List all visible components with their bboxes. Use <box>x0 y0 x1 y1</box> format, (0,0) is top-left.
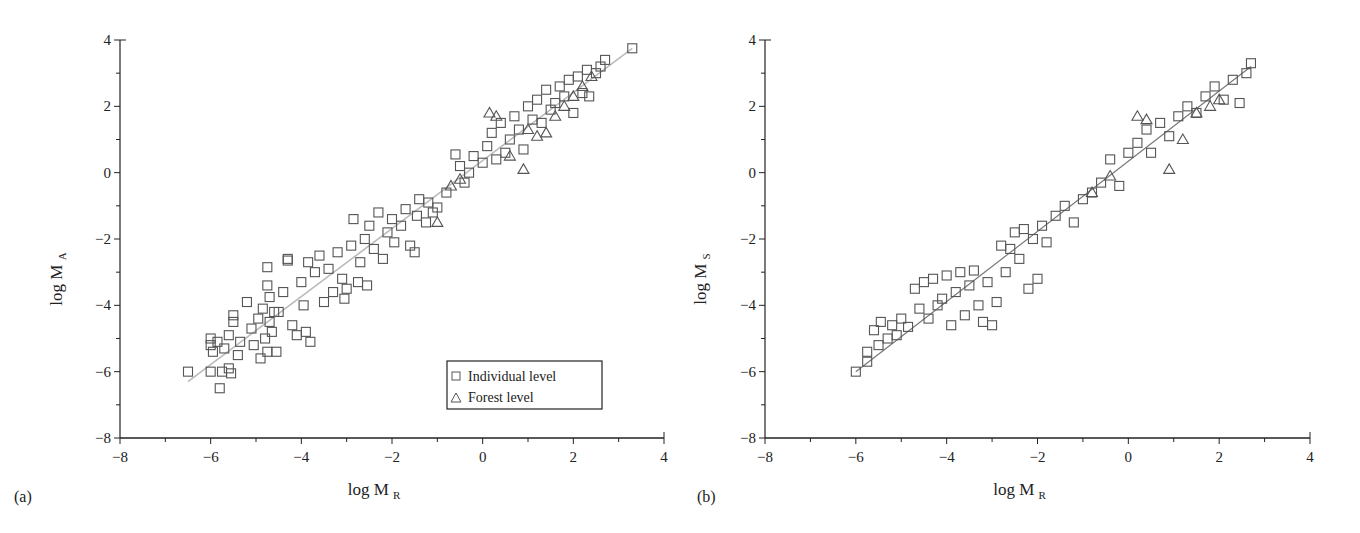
square-marker <box>342 284 351 293</box>
square-marker <box>910 284 919 293</box>
regression-line <box>188 48 632 381</box>
x-tick-label: −8 <box>757 449 773 465</box>
square-marker <box>272 347 281 356</box>
square-marker <box>263 347 272 356</box>
square-marker <box>915 304 924 313</box>
square-marker <box>258 304 267 313</box>
y-tick-label: 0 <box>104 165 112 181</box>
square-marker <box>487 128 496 137</box>
square-marker <box>254 314 263 323</box>
x-tick-label: 2 <box>570 449 578 465</box>
square-marker <box>415 195 424 204</box>
square-marker <box>256 354 265 363</box>
square-marker <box>542 85 551 94</box>
square-marker <box>233 351 242 360</box>
square-marker <box>218 367 227 376</box>
triangle-marker <box>1177 134 1188 144</box>
square-marker <box>206 341 215 350</box>
y-tick-label: 2 <box>749 98 757 114</box>
square-marker <box>1001 268 1010 277</box>
panel-b-chart: −8−6−4−2024−8−6−4−2024log M Rlog M S(b) <box>691 32 1314 506</box>
square-marker <box>349 215 358 224</box>
square-marker <box>519 145 528 154</box>
square-marker <box>585 92 594 101</box>
y-tick-label: −6 <box>740 364 756 380</box>
square-marker <box>265 293 274 302</box>
panel-a-chart: −8−6−4−2024−8−6−4−2024log M Rlog M A(a) <box>14 32 668 506</box>
square-marker <box>870 326 879 335</box>
square-marker <box>992 298 1001 307</box>
square-marker <box>297 278 306 287</box>
x-tick-label: −4 <box>939 449 955 465</box>
square-marker <box>363 281 372 290</box>
square-marker <box>329 288 338 297</box>
square-marker <box>315 251 324 260</box>
square-marker <box>249 341 258 350</box>
square-marker <box>229 317 238 326</box>
y-axis-title: log M S <box>691 253 712 304</box>
square-marker <box>988 321 997 330</box>
square-marker <box>897 314 906 323</box>
square-marker <box>974 301 983 310</box>
square-marker <box>469 152 478 161</box>
square-marker <box>324 264 333 273</box>
y-tick-label: −4 <box>95 297 111 313</box>
panel-label: (b) <box>697 488 716 506</box>
x-tick-label: −4 <box>293 449 309 465</box>
square-marker <box>374 208 383 217</box>
triangle-marker <box>1132 111 1143 121</box>
square-marker <box>876 317 885 326</box>
square-marker <box>304 258 313 267</box>
square-marker <box>261 334 270 343</box>
square-marker <box>1028 235 1037 244</box>
square-marker <box>338 274 347 283</box>
square-marker <box>564 75 573 84</box>
square-marker <box>456 162 465 171</box>
square-marker <box>206 334 215 343</box>
x-tick-label: −2 <box>1030 449 1046 465</box>
square-marker <box>1147 148 1156 157</box>
square-marker <box>1024 284 1033 293</box>
square-marker <box>537 118 546 127</box>
x-tick-label: −6 <box>203 449 219 465</box>
square-marker <box>997 241 1006 250</box>
square-marker <box>1133 138 1142 147</box>
square-marker <box>979 317 988 326</box>
square-marker <box>919 278 928 287</box>
square-marker <box>1069 218 1078 227</box>
y-axis-title: log M A <box>47 252 68 305</box>
square-marker <box>1106 155 1115 164</box>
square-marker <box>1165 132 1174 141</box>
square-marker <box>969 266 978 275</box>
square-marker <box>215 384 224 393</box>
square-marker <box>347 241 356 250</box>
triangle-marker <box>541 127 552 137</box>
square-marker <box>292 331 301 340</box>
square-marker <box>1033 274 1042 283</box>
square-marker <box>942 271 951 280</box>
square-marker <box>390 238 399 247</box>
square-marker <box>874 341 883 350</box>
square-marker <box>1210 82 1219 91</box>
y-tick-label: 4 <box>749 32 757 48</box>
square-marker <box>1156 118 1165 127</box>
square-marker <box>360 235 369 244</box>
x-tick-label: 2 <box>1215 449 1223 465</box>
square-marker <box>1042 238 1051 247</box>
x-tick-label: 4 <box>660 449 668 465</box>
legend: Individual levelForest level <box>447 361 602 409</box>
square-marker <box>569 108 578 117</box>
x-axis-title: log M R <box>348 480 401 501</box>
square-marker <box>333 248 342 257</box>
y-tick-label: 4 <box>104 32 112 48</box>
x-tick-label: −2 <box>384 449 400 465</box>
y-tick-label: −4 <box>740 297 756 313</box>
square-marker <box>1019 225 1028 234</box>
square-marker <box>301 327 310 336</box>
square-marker <box>1246 59 1255 68</box>
square-marker <box>1051 211 1060 220</box>
square-marker <box>510 112 519 121</box>
y-tick-label: −2 <box>95 231 111 247</box>
square-marker <box>1142 125 1151 134</box>
square-marker <box>365 221 374 230</box>
